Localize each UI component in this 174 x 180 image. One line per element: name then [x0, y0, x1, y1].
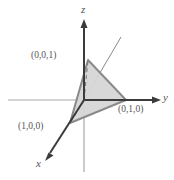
x-axis-arrowhead	[45, 153, 54, 162]
coordinate-figure: z y x (0,0,1) (0,1,0) (1,0,0)	[0, 0, 174, 180]
x-axis-positive-ray	[50, 100, 84, 153]
point-label-1-0-0: (1,0,0)	[18, 122, 43, 132]
x-axis-label: x	[36, 158, 41, 169]
axes-and-triangle-graphic	[0, 0, 174, 180]
point-label-0-0-1: (0,0,1)	[31, 51, 56, 61]
z-axis-label: z	[81, 4, 85, 15]
y-axis-arrowhead	[152, 97, 161, 104]
point-label-0-1-0: (0,1,0)	[118, 105, 143, 115]
z-axis-arrowhead	[81, 19, 88, 28]
y-axis-label: y	[163, 92, 168, 103]
